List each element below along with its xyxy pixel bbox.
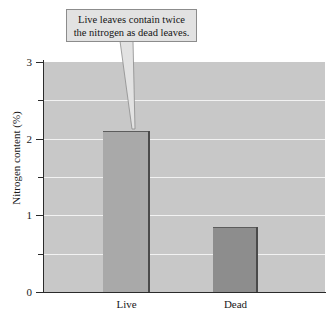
bar-live-face bbox=[103, 131, 150, 292]
callout-annotation-box: Live leaves contain twice the nitrogen a… bbox=[66, 9, 197, 42]
bar-dead bbox=[213, 227, 258, 292]
y-tick-1 bbox=[36, 215, 43, 216]
gridline-1 bbox=[43, 215, 325, 216]
y-tick-2_5 bbox=[38, 100, 43, 101]
bar-live-top-edge bbox=[103, 131, 150, 132]
y-axis-line bbox=[43, 60, 44, 293]
callout-annotation-text: Live leaves contain twice the nitrogen a… bbox=[74, 13, 190, 39]
y-tick-label-3: 3 bbox=[8, 57, 32, 68]
gridline-2 bbox=[43, 139, 325, 140]
x-tick-label-dead: Dead bbox=[213, 298, 258, 310]
bar-dead-right-edge bbox=[256, 227, 258, 292]
y-tick-0 bbox=[36, 292, 43, 293]
bar-dead-face bbox=[213, 227, 258, 292]
bar-live-right-edge bbox=[148, 131, 150, 292]
callout-line-2: the nitrogen as dead leaves. bbox=[74, 27, 190, 38]
gridline-0_5 bbox=[43, 254, 325, 255]
gridline-1_5 bbox=[43, 177, 325, 178]
x-tick-label-live: Live bbox=[103, 298, 150, 310]
gridline-2_5 bbox=[43, 100, 325, 101]
plot-area bbox=[43, 62, 325, 292]
callout-pointer bbox=[112, 41, 144, 131]
y-axis-title: Nitrogen content (%) bbox=[10, 88, 22, 228]
bar-live bbox=[103, 131, 150, 292]
y-tick-3 bbox=[36, 62, 43, 63]
x-axis-line bbox=[43, 292, 326, 293]
y-tick-0_5 bbox=[38, 254, 43, 255]
callout-line-1: Live leaves contain twice bbox=[78, 14, 185, 25]
bar-dead-top-edge bbox=[213, 227, 258, 228]
bar-chart-figure: 3 2 1 0 Nitrogen content (%) Live Dead L… bbox=[0, 0, 335, 321]
y-tick-2 bbox=[36, 139, 43, 140]
y-tick-label-0: 0 bbox=[8, 287, 32, 298]
y-tick-1_5 bbox=[38, 177, 43, 178]
